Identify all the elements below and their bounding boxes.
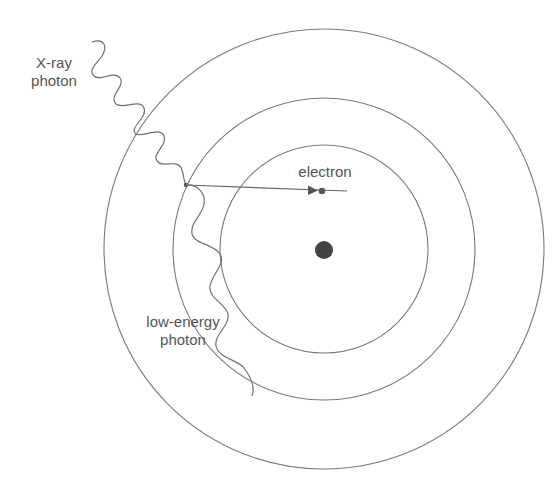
electron xyxy=(319,188,326,195)
atom-diagram: X-ray photon electron low-energy photon xyxy=(0,0,560,502)
electron-label-text: electron xyxy=(288,163,362,181)
electron-label: electron xyxy=(288,163,362,181)
xray-label-line1: X-ray xyxy=(22,54,86,72)
xray-photon-label: X-ray photon xyxy=(22,54,86,90)
arrowhead-icon xyxy=(308,186,318,196)
low-energy-photon-wave xyxy=(186,185,253,396)
low-energy-label-line2: photon xyxy=(138,331,228,349)
low-energy-label-line1: low-energy xyxy=(138,313,228,331)
xray-label-line2: photon xyxy=(22,72,86,90)
nucleus xyxy=(315,241,333,259)
low-energy-photon-label: low-energy photon xyxy=(138,313,228,349)
xray-photon-wave xyxy=(92,41,186,185)
